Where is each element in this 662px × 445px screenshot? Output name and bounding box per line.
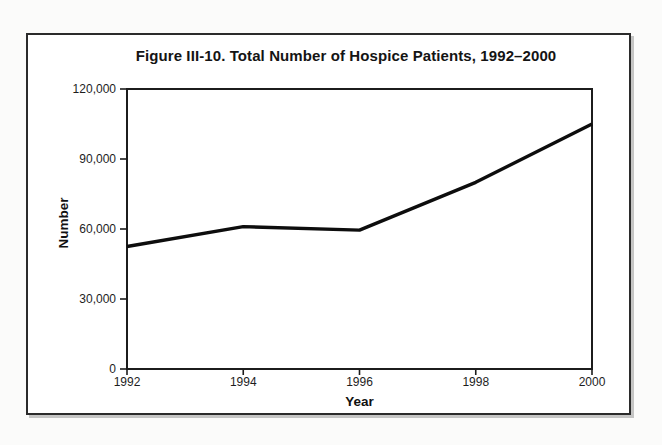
x-tick-label: 1996: [346, 375, 373, 389]
x-tick-label: 2000: [579, 375, 606, 389]
x-axis-label: Year: [345, 394, 374, 409]
hospice-patients-line-chart: 030,00060,00090,000120,00019921994199619…: [0, 0, 662, 445]
y-axis-label: Number: [56, 197, 71, 249]
y-tick-label: 30,000: [79, 292, 116, 306]
y-tick-label: 60,000: [79, 222, 116, 236]
data-line-total-hospice-patients: [127, 124, 592, 247]
x-tick-label: 1998: [462, 375, 489, 389]
y-tick-label: 0: [109, 362, 116, 376]
x-tick-label: 1994: [230, 375, 257, 389]
y-tick-label: 120,000: [73, 82, 117, 96]
y-tick-label: 90,000: [79, 152, 116, 166]
x-tick-label: 1992: [114, 375, 141, 389]
